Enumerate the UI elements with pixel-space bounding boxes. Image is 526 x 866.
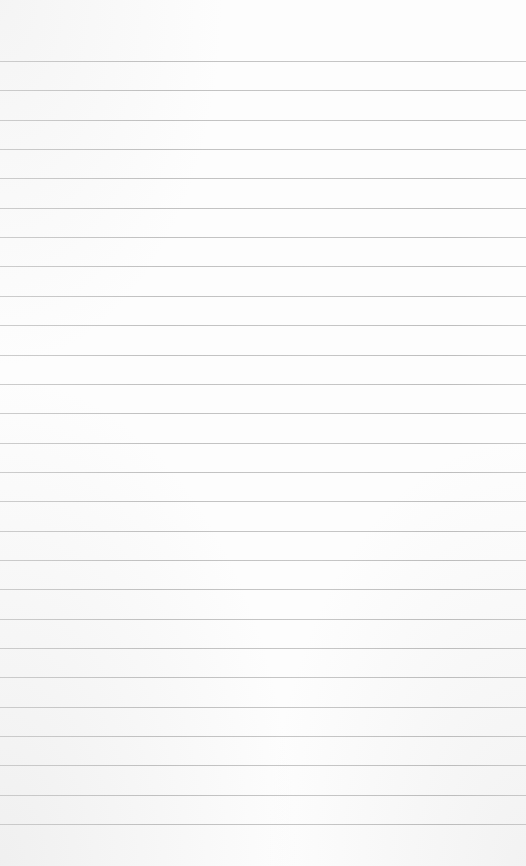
ruled-line bbox=[0, 648, 526, 649]
ruled-line bbox=[0, 296, 526, 297]
ruled-line bbox=[0, 531, 526, 532]
ruled-line bbox=[0, 736, 526, 737]
ruled-line bbox=[0, 355, 526, 356]
ruled-line bbox=[0, 677, 526, 678]
lined-paper-sheet bbox=[0, 0, 526, 866]
ruled-line bbox=[0, 266, 526, 267]
ruled-line bbox=[0, 472, 526, 473]
ruled-line bbox=[0, 90, 526, 91]
ruled-line bbox=[0, 61, 526, 62]
ruled-line bbox=[0, 560, 526, 561]
ruled-line bbox=[0, 795, 526, 796]
ruled-line bbox=[0, 149, 526, 150]
ruled-line bbox=[0, 208, 526, 209]
ruled-line bbox=[0, 384, 526, 385]
ruled-line bbox=[0, 413, 526, 414]
ruled-line bbox=[0, 325, 526, 326]
ruled-line bbox=[0, 443, 526, 444]
ruled-line bbox=[0, 178, 526, 179]
ruled-line bbox=[0, 824, 526, 825]
ruled-line bbox=[0, 619, 526, 620]
ruled-line bbox=[0, 501, 526, 502]
ruled-line bbox=[0, 237, 526, 238]
ruled-line bbox=[0, 707, 526, 708]
ruled-line bbox=[0, 120, 526, 121]
ruled-line bbox=[0, 589, 526, 590]
ruled-line bbox=[0, 765, 526, 766]
